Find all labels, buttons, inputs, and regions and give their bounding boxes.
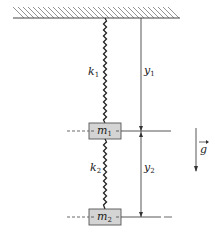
spring-k1: [104, 18, 107, 123]
spring-k2: [104, 139, 107, 209]
label-y1: y1: [143, 64, 155, 78]
spring-mass-diagram: k1 y1 m1 k2 y2 m2 g: [0, 0, 215, 233]
label-g: g: [200, 143, 207, 156]
label-k1: k1: [88, 65, 99, 79]
gravity-arrow-icon: [194, 166, 198, 172]
label-k2: k2: [90, 161, 101, 175]
label-y2: y2: [143, 161, 155, 175]
y2-bottom-arrow-icon: [139, 212, 143, 217]
ceiling: [13, 7, 180, 18]
y1-arrow-icon: [139, 126, 143, 131]
y2-top-arrow-icon: [139, 132, 143, 137]
ceiling-hatch: [13, 7, 179, 18]
gravity-indicator: g: [194, 128, 209, 172]
